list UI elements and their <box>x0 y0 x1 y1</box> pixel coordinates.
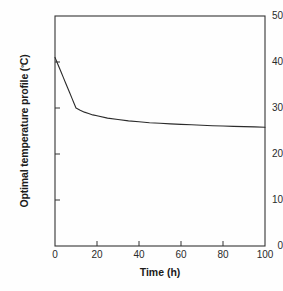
y-axis-ticks <box>55 62 60 200</box>
data-series-line <box>55 57 265 127</box>
plot-area <box>0 0 283 291</box>
axes-frame <box>55 16 265 246</box>
chart-figure: Optimal temperature profile (ºC) Time (h… <box>0 0 283 291</box>
x-axis-ticks <box>97 241 223 246</box>
